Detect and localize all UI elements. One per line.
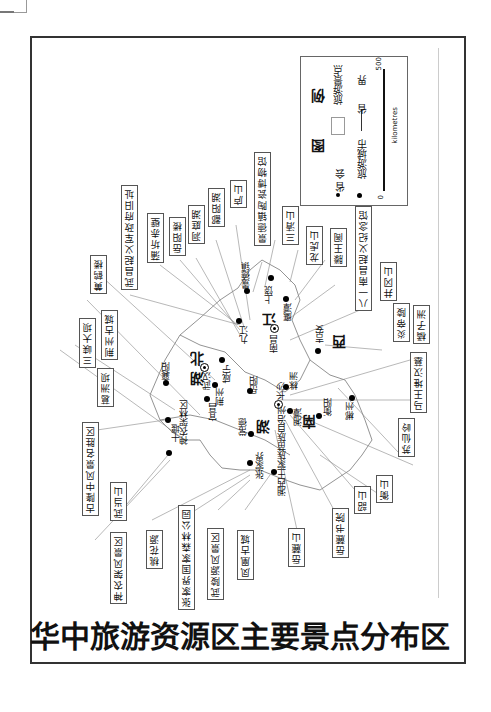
scenic-label-lushan: 庐山 bbox=[230, 180, 247, 208]
legend-heading-2: 例 bbox=[309, 89, 329, 103]
scenic-label-wulingyuan: 武陵源风景区 bbox=[207, 528, 224, 600]
city-label-jingzhou: 荆州 bbox=[214, 388, 224, 406]
city-label-xiangyang: 襄阳 bbox=[160, 362, 170, 380]
legend-scale-bar bbox=[383, 69, 385, 191]
city-dot-changde bbox=[248, 431, 254, 437]
scenic-label-sanqingshan: 三清山 bbox=[282, 206, 299, 245]
capital-marker-wuhan bbox=[200, 363, 209, 372]
city-dot-shennongjia bbox=[166, 450, 172, 456]
scenic-label-suxianling: 苏仙岭 bbox=[398, 418, 415, 457]
city-dot-zhangjiajie bbox=[247, 460, 253, 466]
city-label-xiangtan: 湘潭 bbox=[292, 408, 302, 426]
city-label-changde: 常德 bbox=[237, 418, 247, 436]
scenic-label-longhushan: 龙虎山 bbox=[306, 226, 323, 265]
city-dot-jiujiang bbox=[236, 318, 242, 324]
city-dot-shiyan bbox=[165, 417, 171, 423]
scenic-label-hengshan: 衡山 bbox=[376, 475, 393, 503]
province-label-hunan-1: 湖 bbox=[254, 420, 274, 434]
legend-scale-start: 0 bbox=[377, 195, 385, 199]
city-label-xianning: 咸宁 bbox=[221, 365, 231, 383]
city-label-yingtan: 鹰潭 bbox=[282, 303, 292, 321]
scenic-label-jingzhou-old: 荆州古城 bbox=[101, 310, 118, 360]
city-label-zhangjiajie: 张家界 bbox=[254, 452, 264, 479]
city-dot-xiangyang bbox=[163, 380, 169, 386]
scenic-label-juzizhou: 橘子洲 bbox=[413, 305, 430, 344]
scenic-label-tengwang: 滕王阁 bbox=[330, 228, 347, 267]
legend-capital-icon bbox=[336, 193, 340, 197]
map-legend: 图 例 省 会 旅游城市 旅游景点 省 界 0 500 kilometres bbox=[300, 56, 408, 206]
scenic-label-three-gorges: 三峡大坝 bbox=[79, 318, 96, 368]
scenic-label-yandi-ling: 炎帝陵 bbox=[393, 303, 410, 342]
scenic-label-snj-scenic: 神农架风景区 bbox=[110, 532, 127, 604]
legend-scale-unit: kilometres bbox=[391, 107, 399, 144]
city-label-shennongjia: 神农架林区 bbox=[178, 400, 188, 445]
scenic-label-yellow-crane: 黄鹤楼 bbox=[90, 255, 107, 294]
city-label-jian: 吉安 bbox=[314, 325, 324, 343]
legend-tourist-city-label: 旅游城市 bbox=[355, 139, 370, 179]
map-title: 华中旅游资源区主要景点分布区 bbox=[30, 612, 450, 656]
scenic-label-gulongzhong: 古隆中风景名胜区 bbox=[82, 422, 99, 516]
city-label-wuhan: 武汉 bbox=[201, 372, 211, 390]
legend-scenic-box-icon bbox=[331, 117, 345, 135]
city-label-hengyang: 衡阳 bbox=[322, 398, 332, 416]
city-label-chenzhou: 郴州 bbox=[344, 402, 354, 420]
scenic-label-yuelushan: 岳麓山 bbox=[288, 528, 305, 567]
scenic-label-puqi-chibi: 蒲圻赤壁 bbox=[147, 213, 164, 263]
city-label-jiujiang: 九江 bbox=[238, 326, 248, 344]
legend-tourist-city-icon bbox=[357, 193, 362, 198]
scenic-label-jingdezhen-museum: 景德镇陶瓷博物馆 bbox=[254, 152, 271, 246]
city-dot-yichang bbox=[204, 396, 210, 402]
province-label-jiangxi-2: 西 bbox=[330, 335, 350, 349]
scenic-label-bayi-memorial: 八一南昌起义纪念馆 bbox=[355, 206, 372, 311]
city-dot-shangrao bbox=[268, 275, 274, 281]
scenic-label-wudangshan: 武当山 bbox=[110, 482, 127, 521]
scenic-label-wuchang-uprising: 武昌起义军政府旧址 bbox=[121, 185, 138, 290]
city-label-yueyang: 岳阳 bbox=[248, 376, 258, 394]
scenic-label-yueyang-tower: 岳阳楼 bbox=[169, 217, 186, 256]
legend-boundary-label: 省 界 bbox=[355, 67, 370, 114]
scenic-label-mawangdui: 马王堆汉墓 bbox=[410, 352, 427, 413]
scenic-label-fenghuang: 凤凰古城 bbox=[237, 530, 254, 580]
city-dot-chenzhou bbox=[349, 395, 355, 401]
city-dot-xianning bbox=[219, 357, 225, 363]
legend-scale-end: 500 bbox=[375, 57, 383, 70]
scenic-label-zjj-forest: 张家界国家森林公园 bbox=[178, 505, 195, 610]
legend-heading-1: 图 bbox=[309, 139, 329, 153]
scenic-label-yuelu-academy: 岳麓书院 bbox=[332, 508, 349, 558]
city-dot-yingtan bbox=[283, 296, 289, 302]
scenic-label-dongting-lake: 洞庭湖 bbox=[188, 205, 205, 244]
legend-scenic-label: 旅游景点 bbox=[331, 65, 346, 105]
legend-capital-label: 省 会 bbox=[333, 169, 348, 192]
scenic-label-gezhouba: 葛洲坝 bbox=[97, 368, 114, 407]
city-label-xiangxi: 湘西土家族苗族自治州 bbox=[276, 406, 286, 496]
city-label-jingdezhen: 景德镇 bbox=[240, 262, 250, 289]
scenic-label-shaoshan: 韶山 bbox=[354, 486, 371, 514]
city-label-shangrao: 上饶 bbox=[263, 286, 273, 304]
scenic-label-taohuayuan: 桃花源 bbox=[146, 530, 163, 569]
scenic-label-poyang-lake: 鄱阳湖 bbox=[208, 188, 225, 227]
city-label-zhuzhou: 株洲 bbox=[288, 372, 298, 390]
scenic-label-jinggangshan: 井冈山 bbox=[380, 262, 397, 301]
capital-marker-nanchang bbox=[270, 324, 279, 333]
city-dot-jian bbox=[315, 348, 321, 354]
city-label-nanchang: 南昌 bbox=[268, 335, 278, 353]
